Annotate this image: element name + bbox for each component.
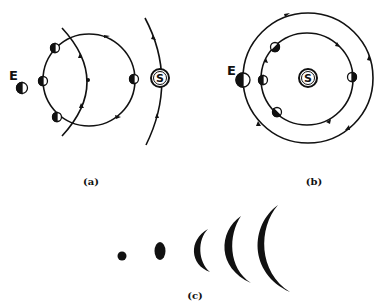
phase-dot-icon bbox=[118, 252, 127, 261]
earth-label-b: E bbox=[227, 63, 236, 78]
earth-label-a: E bbox=[9, 68, 18, 83]
diagram-canvas bbox=[0, 0, 381, 308]
moon-phase-icons-a bbox=[17, 44, 139, 122]
sun-label-a: S bbox=[156, 72, 164, 85]
sun-label-b: S bbox=[304, 72, 312, 85]
caption-b: (b) bbox=[306, 176, 322, 187]
arrow-icon bbox=[345, 125, 350, 130]
caption-c: (c) bbox=[187, 290, 203, 301]
moon-phase-icons-b bbox=[236, 43, 357, 117]
phase-crescent-large-icon bbox=[258, 205, 290, 292]
phase-crescent-medium-icon bbox=[224, 216, 251, 283]
phase-sequence-c bbox=[118, 205, 291, 292]
caption-a: (a) bbox=[83, 176, 99, 187]
phase-crescent-small-icon bbox=[194, 229, 210, 272]
phase-gibbous-icon bbox=[155, 242, 166, 260]
